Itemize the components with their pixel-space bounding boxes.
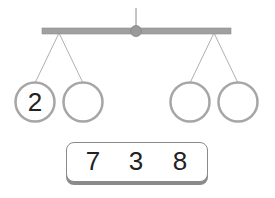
number-tile-3[interactable]: 8 (165, 146, 195, 176)
pivot (131, 26, 142, 37)
string-right-1 (190, 33, 214, 83)
right-pan-2[interactable] (219, 83, 258, 122)
right-pan-1[interactable] (171, 83, 210, 122)
left-pan-1-value: 2 (20, 87, 50, 117)
number-tile-2[interactable]: 3 (121, 146, 151, 176)
number-tile-1[interactable]: 7 (78, 146, 108, 176)
string-right-2 (214, 33, 238, 83)
left-pan-2[interactable] (64, 83, 103, 122)
string-left-1 (35, 33, 59, 83)
string-left-2 (59, 33, 83, 83)
